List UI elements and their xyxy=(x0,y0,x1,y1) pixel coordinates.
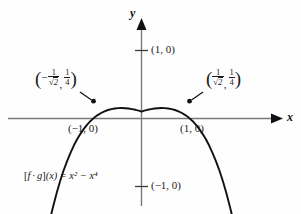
leader-line-right xyxy=(192,92,204,100)
max-right-radicand: 2 xyxy=(218,77,223,87)
y-axis-arrowhead xyxy=(137,18,147,30)
leader-line-left xyxy=(80,92,92,100)
max-right-y-denominator: 4 xyxy=(229,77,235,87)
equation-argument: (x) xyxy=(46,170,58,181)
max-left-x-fraction: 1 √2 xyxy=(48,68,59,88)
max-left-x-denominator: √2 xyxy=(48,76,59,87)
x-intercept-right-label: (1, 0) xyxy=(180,123,204,134)
max-right-x-denominator: √2 xyxy=(212,76,223,87)
max-left-minus-sign: − xyxy=(41,72,48,83)
graph-figure: y x (1, 0) (−1, 0) (−1, 0) (1, 0) ( − 1 … xyxy=(0,0,301,214)
equation-right-hand-side: x² − x⁴ xyxy=(69,170,97,181)
max-right-coordinate-label: ( 1 √2 , 1 4 ) xyxy=(206,68,241,88)
x-axis-label: x xyxy=(287,111,293,123)
x-axis-group xyxy=(8,114,283,124)
max-right-y-numerator: 1 xyxy=(229,68,235,77)
x-axis-arrowhead xyxy=(271,114,283,124)
max-right-y-fraction: 1 4 xyxy=(229,68,235,87)
max-left-coordinate-label: ( − 1 √2 , 1 4 ) xyxy=(35,68,77,88)
max-left-radicand: 2 xyxy=(53,77,58,87)
max-right-x-numerator: 1 xyxy=(212,68,223,77)
function-equation-label: [f·g](x)=x² − x⁴ xyxy=(24,171,98,182)
y-axis-label: y xyxy=(130,7,135,19)
y-tick-lower-label: (−1, 0) xyxy=(151,180,181,191)
max-left-x-numerator: 1 xyxy=(48,68,59,77)
y-tick-upper-label: (1, 0) xyxy=(151,44,175,55)
equation-equals: = xyxy=(57,170,69,181)
max-right-x-fraction: 1 √2 xyxy=(212,68,223,88)
x-intercept-left-label: (−1, 0) xyxy=(68,123,98,134)
